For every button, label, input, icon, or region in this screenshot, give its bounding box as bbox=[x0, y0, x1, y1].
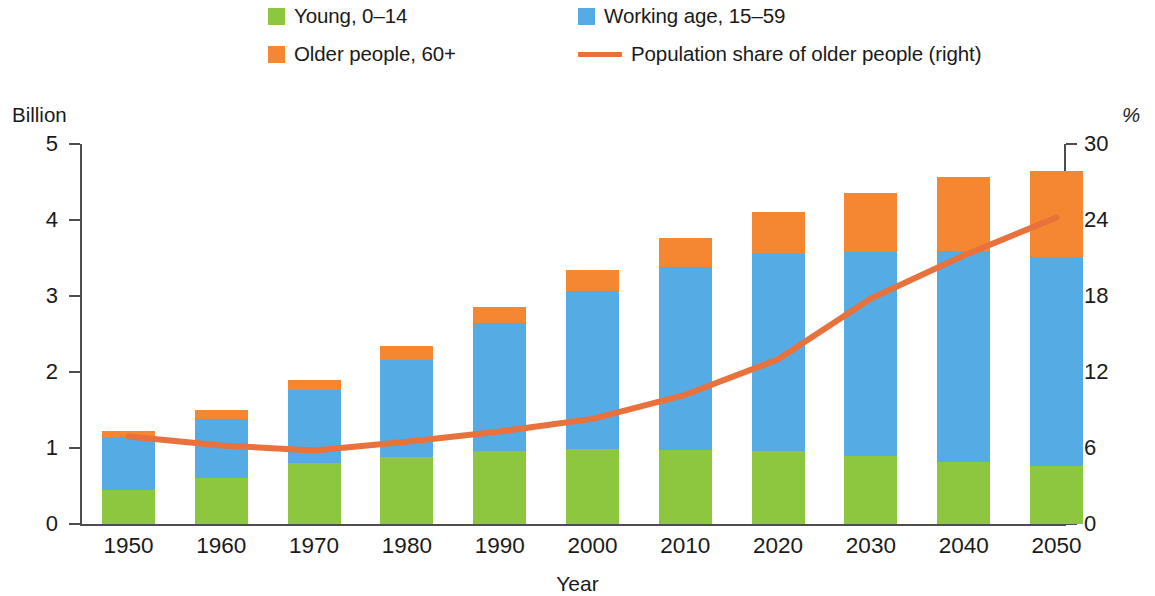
bar-segment-1960-older[interactable] bbox=[195, 410, 248, 419]
bar-segment-2010-young[interactable] bbox=[659, 450, 712, 524]
bar-segment-2020-older[interactable] bbox=[752, 212, 805, 253]
bar-group-1990[interactable] bbox=[473, 144, 526, 524]
bar-group-2020[interactable] bbox=[752, 144, 805, 524]
bar-segment-1950-working-age[interactable] bbox=[102, 437, 155, 490]
bar-group-1970[interactable] bbox=[288, 144, 341, 524]
bar-segment-1990-young[interactable] bbox=[473, 451, 526, 524]
bar-segment-2000-older[interactable] bbox=[566, 270, 619, 291]
bar-group-1960[interactable] bbox=[195, 144, 248, 524]
bar-segment-2040-young[interactable] bbox=[937, 462, 990, 524]
bar-segment-2030-working-age[interactable] bbox=[844, 252, 897, 456]
x-tick-label-2030: 2030 bbox=[826, 535, 916, 558]
left-tick-label: 5 bbox=[18, 133, 58, 155]
right-tick-label: 6 bbox=[1084, 437, 1130, 459]
x-axis-title: Year bbox=[0, 572, 1155, 596]
bar-segment-1950-older[interactable] bbox=[102, 431, 155, 437]
bar-group-2050[interactable] bbox=[1030, 144, 1083, 524]
x-tick-label-1990: 1990 bbox=[455, 535, 545, 558]
x-tick-label-1970: 1970 bbox=[269, 535, 359, 558]
left-tick-mark bbox=[69, 295, 80, 297]
x-tick-label-1950: 1950 bbox=[84, 535, 174, 558]
bar-segment-2040-older[interactable] bbox=[937, 177, 990, 251]
bar-group-2010[interactable] bbox=[659, 144, 712, 524]
x-tick-label-2000: 2000 bbox=[548, 535, 638, 558]
left-tick-mark bbox=[69, 523, 80, 525]
bar-segment-2040-working-age[interactable] bbox=[937, 251, 990, 462]
bar-segment-2020-working-age[interactable] bbox=[752, 253, 805, 451]
left-tick-mark bbox=[69, 219, 80, 221]
bar-segment-2000-young[interactable] bbox=[566, 449, 619, 524]
left-tick-label: 0 bbox=[18, 513, 58, 535]
bar-segment-2020-young[interactable] bbox=[752, 451, 805, 524]
right-tick-label: 30 bbox=[1084, 133, 1130, 155]
bar-segment-2000-working-age[interactable] bbox=[566, 291, 619, 448]
bar-segment-1990-older[interactable] bbox=[473, 307, 526, 323]
left-tick-label: 1 bbox=[18, 437, 58, 459]
right-axis-unit-label: % bbox=[1122, 103, 1140, 127]
bar-segment-2050-working-age[interactable] bbox=[1030, 257, 1083, 466]
right-tick-label: 24 bbox=[1084, 209, 1130, 231]
x-tick-label-2010: 2010 bbox=[640, 535, 730, 558]
chart-plot-area: Billion % 012345 0612182430 195019601970… bbox=[0, 0, 1155, 596]
bar-segment-2010-older[interactable] bbox=[659, 238, 712, 267]
left-tick-mark bbox=[69, 371, 80, 373]
x-axis-line bbox=[80, 524, 1066, 526]
bar-segment-1950-young[interactable] bbox=[102, 490, 155, 524]
bar-group-2040[interactable] bbox=[937, 144, 990, 524]
bar-segment-1970-working-age[interactable] bbox=[288, 390, 341, 463]
bar-group-1980[interactable] bbox=[380, 144, 433, 524]
bar-segment-1990-working-age[interactable] bbox=[473, 323, 526, 451]
bar-group-1950[interactable] bbox=[102, 144, 155, 524]
left-tick-label: 3 bbox=[18, 285, 58, 307]
x-tick-label-1960: 1960 bbox=[176, 535, 266, 558]
left-y-axis-line bbox=[80, 144, 82, 526]
left-tick-mark bbox=[69, 447, 80, 449]
bar-group-2000[interactable] bbox=[566, 144, 619, 524]
x-tick-label-2050: 2050 bbox=[1012, 535, 1102, 558]
left-tick-label: 2 bbox=[18, 361, 58, 383]
bar-segment-2030-young[interactable] bbox=[844, 456, 897, 524]
bar-segment-1970-older[interactable] bbox=[288, 380, 341, 391]
bar-segment-2030-older[interactable] bbox=[844, 193, 897, 252]
bar-segment-1980-working-age[interactable] bbox=[380, 360, 433, 457]
bar-segment-2050-young[interactable] bbox=[1030, 466, 1083, 524]
bar-group-2030[interactable] bbox=[844, 144, 897, 524]
bar-segment-1980-young[interactable] bbox=[380, 457, 433, 524]
left-tick-label: 4 bbox=[18, 209, 58, 231]
left-axis-unit-label: Billion bbox=[12, 103, 67, 127]
right-tick-label: 0 bbox=[1084, 513, 1130, 535]
bar-segment-1980-older[interactable] bbox=[380, 346, 433, 360]
bar-segment-2010-working-age[interactable] bbox=[659, 267, 712, 449]
bar-segment-1970-young[interactable] bbox=[288, 463, 341, 524]
x-tick-label-2040: 2040 bbox=[919, 535, 1009, 558]
right-tick-label: 18 bbox=[1084, 285, 1130, 307]
right-tick-label: 12 bbox=[1084, 361, 1130, 383]
x-tick-label-1980: 1980 bbox=[362, 535, 452, 558]
bar-segment-1960-working-age[interactable] bbox=[195, 419, 248, 478]
left-tick-mark bbox=[69, 143, 80, 145]
bar-segment-2050-older[interactable] bbox=[1030, 171, 1083, 257]
bar-segment-1960-young[interactable] bbox=[195, 478, 248, 524]
x-tick-label-2020: 2020 bbox=[733, 535, 823, 558]
